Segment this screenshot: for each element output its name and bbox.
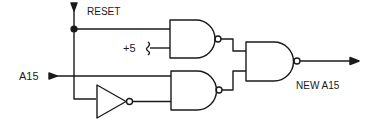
junction-dot: [70, 25, 77, 32]
inverter-gate: [97, 85, 126, 118]
new-a15-output-label: NEW A15: [296, 81, 339, 91]
nand-out-gate: [246, 42, 294, 81]
a15-input-label: A15: [19, 71, 39, 82]
pullup-resistor-icon: [147, 42, 150, 55]
nand-bottom-out-wire: [222, 71, 246, 90]
reset-wire: [74, 4, 96, 99]
reset-label: RESET: [87, 7, 120, 17]
nand-top-out-wire: [221, 39, 246, 51]
logic-circuit-diagram: RESET +5 A15 NEW A15: [0, 0, 376, 129]
plus5-label: +5: [123, 43, 136, 54]
nand-out-bubble: [294, 58, 300, 64]
nand-top-bubble: [215, 36, 221, 42]
inverter-bubble: [127, 99, 133, 105]
output-arrow-icon: [350, 58, 359, 65]
reset-arrow-icon: [71, 3, 77, 11]
circuit-wires: [0, 0, 376, 129]
nand-bottom-gate: [171, 71, 216, 110]
nand-top-gate: [170, 20, 215, 58]
a15-arrow-icon: [49, 73, 57, 79]
